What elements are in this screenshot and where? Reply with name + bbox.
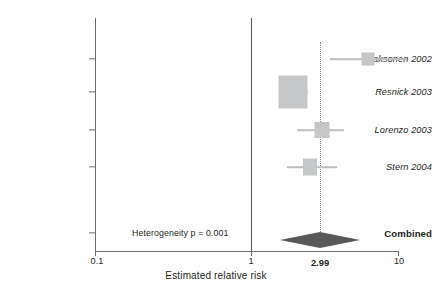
study-box-lorenzo-2003 <box>315 122 330 138</box>
row-tick-stern-2004 <box>89 166 95 167</box>
row-label-lorenzo-2003: Lorenzo 2003 <box>343 125 432 135</box>
study-box-stern-2004 <box>303 159 317 176</box>
x-tick-label-2: 10 <box>394 256 404 266</box>
row-label-stern-2004: Stern 2004 <box>343 162 432 172</box>
x-tick-label-0: 0.1 <box>91 256 104 266</box>
row-tick-resnick-2003 <box>89 91 95 92</box>
forest-plot: 0.1 1 10 2.99 Laaksonen 2002 Resnick 200… <box>0 0 432 288</box>
row-tick-combined <box>89 232 95 233</box>
x-axis-title: Estimated relative risk <box>0 270 432 281</box>
row-tick-laaksonen-2002 <box>89 58 95 59</box>
row-tick-lorenzo-2003 <box>89 129 95 130</box>
heterogeneity-text: Heterogeneity p = 0.001 <box>132 228 228 238</box>
row-label-resnick-2003: Resnick 2003 <box>343 87 432 97</box>
summary-value-label: 2.99 <box>311 257 329 268</box>
y-axis-line <box>95 18 96 251</box>
combined-diamond <box>279 230 361 250</box>
x-axis-line <box>95 251 398 252</box>
study-box-resnick-2003 <box>279 76 308 109</box>
study-box-laaksonen-2002 <box>362 53 375 66</box>
null-effect-line <box>251 18 252 251</box>
summary-reference-line <box>320 42 321 240</box>
x-tick-label-1: 1 <box>248 256 253 266</box>
